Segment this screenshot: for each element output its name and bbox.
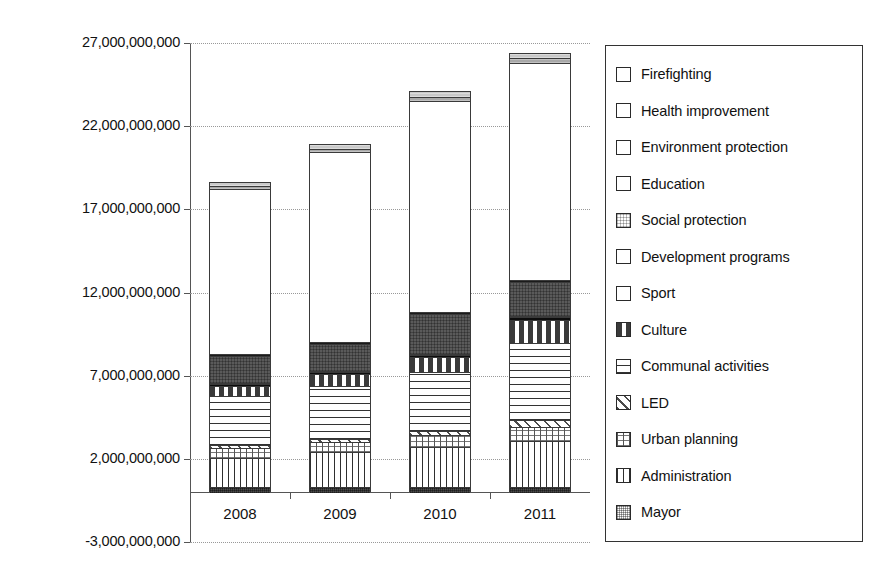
legend-item-communal[interactable]: Communal activities [616, 348, 862, 385]
bar-2009 [309, 144, 371, 492]
y-axis-tick-label: 22,000,000,000 [82, 117, 180, 133]
legend-swatch-education-icon [616, 176, 631, 191]
bar-2010 [409, 91, 471, 492]
bar-segment-culture [310, 375, 370, 387]
bar-segment-admin [410, 448, 470, 488]
y-axis-tick-label: 12,000,000,000 [82, 284, 180, 300]
legend-label: Development programs [641, 249, 790, 265]
legend-item-devprog[interactable]: Development programs [616, 239, 862, 276]
stacked-bar-chart: 27,000,000,00022,000,000,00017,000,000,0… [0, 0, 874, 584]
bar-segment-social [210, 357, 270, 384]
bar-segment-education [510, 64, 570, 281]
bar-segment-culture [510, 321, 570, 344]
bar-segment-urban [410, 436, 470, 448]
bar-segment-education [310, 153, 370, 343]
bar-segment-mayor [510, 488, 570, 493]
y-axis-labels: 27,000,000,00022,000,000,00017,000,000,0… [0, 0, 180, 584]
legend-label: Education [641, 176, 705, 192]
legend-item-education[interactable]: Education [616, 166, 862, 203]
bar-segment-urban [510, 428, 570, 442]
x-axis-label-2009: 2009 [290, 505, 390, 522]
y-axis-tick [184, 293, 190, 294]
gridline [190, 542, 590, 543]
bar-segment-culture [210, 387, 270, 397]
legend-item-urban[interactable]: Urban planning [616, 421, 862, 458]
legend-item-admin[interactable]: Administration [616, 458, 862, 495]
legend-swatch-social-icon [616, 213, 631, 228]
legend-label: Mayor [641, 504, 681, 520]
legend-label: Administration [641, 468, 731, 484]
bar-segment-led [510, 421, 570, 428]
legend-swatch-communal-icon [616, 359, 631, 374]
legend-item-culture[interactable]: Culture [616, 312, 862, 349]
legend-label: Firefighting [641, 66, 712, 82]
legend-label: Sport [641, 285, 675, 301]
bar-segment-urban [310, 443, 370, 453]
x-axis-label-2011: 2011 [490, 505, 590, 522]
plot-area [190, 43, 590, 542]
y-axis-tick [184, 542, 190, 543]
legend-label: Urban planning [641, 431, 738, 447]
bar-segment-social [310, 345, 370, 372]
legend-label: LED [641, 395, 669, 411]
bar-segment-mayor [310, 488, 370, 493]
legend-swatch-health-icon [616, 103, 631, 118]
bar-segment-communal [310, 387, 370, 440]
legend-item-social[interactable]: Social protection [616, 202, 862, 239]
x-axis-label-2008: 2008 [190, 505, 290, 522]
y-axis-tick [184, 376, 190, 377]
bar-segment-admin [510, 442, 570, 488]
bar-segment-communal [210, 397, 270, 446]
bar-segment-admin [310, 453, 370, 488]
legend-swatch-led-icon [616, 395, 631, 410]
legend-swatch-fire-icon [616, 67, 631, 82]
y-axis-tick-label: 7,000,000,000 [90, 367, 180, 383]
y-axis-tick [184, 126, 190, 127]
legend-label: Health improvement [641, 103, 769, 119]
legend-swatch-envprot-icon [616, 140, 631, 155]
legend-label: Culture [641, 322, 687, 338]
legend-swatch-urban-icon [616, 432, 631, 447]
legend-swatch-mayor-icon [616, 505, 631, 520]
x-axis-tick [490, 492, 491, 499]
bar-2008 [209, 182, 271, 492]
bar-segment-urban [210, 449, 270, 459]
bar-segment-social [510, 283, 570, 317]
legend-item-sport[interactable]: Sport [616, 275, 862, 312]
bar-segment-mayor [410, 488, 470, 493]
y-axis-tick-label: 17,000,000,000 [82, 200, 180, 216]
legend-item-led[interactable]: LED [616, 385, 862, 422]
y-axis-tick [184, 43, 190, 44]
y-axis-tick [184, 459, 190, 460]
x-axis-tick [290, 492, 291, 499]
bar-segment-education [410, 102, 470, 313]
y-axis-tick-label: 2,000,000,000 [90, 450, 180, 466]
legend-swatch-devprog-icon [616, 249, 631, 264]
bar-segment-admin [210, 459, 270, 488]
bar-segment-social [410, 315, 470, 355]
x-axis-label-2010: 2010 [390, 505, 490, 522]
legend-label: Environment protection [641, 139, 788, 155]
bar-segment-communal [410, 373, 470, 432]
legend-item-envprot[interactable]: Environment protection [616, 129, 862, 166]
legend: FirefightingHealth improvementEnvironmen… [605, 45, 863, 542]
legend-label: Social protection [641, 212, 747, 228]
legend-label: Communal activities [641, 358, 769, 374]
legend-swatch-culture-icon [616, 322, 631, 337]
legend-swatch-sport-icon [616, 286, 631, 301]
y-axis-tick-label: 27,000,000,000 [82, 34, 180, 50]
bar-segment-culture [410, 358, 470, 373]
bar-segment-education [210, 190, 270, 355]
bar-segment-communal [510, 344, 570, 421]
legend-swatch-admin-icon [616, 468, 631, 483]
bar-segment-mayor [210, 488, 270, 493]
y-axis-tick [184, 209, 190, 210]
legend-item-health[interactable]: Health improvement [616, 93, 862, 130]
gridline [190, 43, 590, 44]
bar-2011 [509, 53, 571, 492]
x-axis-tick [390, 492, 391, 499]
y-axis-tick-label: -3,000,000,000 [85, 533, 180, 549]
legend-item-mayor[interactable]: Mayor [616, 494, 862, 531]
legend-item-fire[interactable]: Firefighting [616, 56, 862, 93]
